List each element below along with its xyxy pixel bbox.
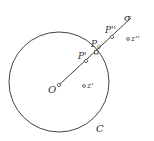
- point-p0: [95, 51, 99, 55]
- label-o: O: [48, 84, 56, 95]
- point-p-double: [110, 35, 113, 38]
- label-p-prime: P': [77, 51, 87, 61]
- point-z-double: [127, 38, 130, 41]
- label-p-double: P'': [104, 25, 116, 35]
- point-o: [57, 83, 60, 86]
- label-c: C: [96, 123, 104, 134]
- point-z-prime: [83, 85, 86, 88]
- inversion-diagram: O P' P 0 P'' σ z' z'' C: [0, 0, 154, 141]
- label-sigma: σ: [124, 12, 132, 23]
- label-z-double: z'': [130, 34, 140, 43]
- label-z-prime: z': [86, 81, 93, 90]
- label-p0-sub: 0: [97, 43, 101, 50]
